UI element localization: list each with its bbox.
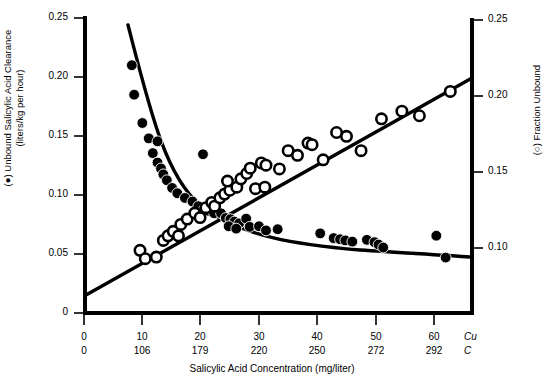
data-point-fraction-unbound	[195, 212, 205, 222]
xtick-cu-4: 40	[297, 331, 337, 342]
y-axis-right-title: (○) Fraction Unbound	[531, 25, 543, 195]
ytick-left-3: 0.10	[28, 188, 68, 199]
data-point-fraction-unbound	[173, 231, 183, 241]
data-point-clearance	[126, 60, 137, 71]
ytick-right-0: 0.25	[488, 13, 528, 24]
data-point-clearance	[440, 252, 451, 263]
data-point-fraction-unbound	[274, 164, 284, 174]
ytick-right-2: 0.15	[488, 165, 528, 176]
chart-plot-area	[0, 0, 544, 388]
data-point-fraction-unbound	[292, 150, 302, 160]
xtick-c-3: 220	[239, 345, 279, 356]
data-point-fraction-unbound	[318, 155, 328, 165]
data-point-fraction-unbound	[307, 139, 317, 149]
xtick-cu-5: 50	[356, 331, 396, 342]
caption-strip	[0, 381, 544, 388]
data-point-fraction-unbound	[151, 252, 161, 262]
data-point-clearance	[129, 89, 140, 100]
data-point-fraction-unbound	[260, 182, 270, 192]
ytick-left-0: 0.25	[28, 11, 68, 22]
xtick-cu-6: 60	[414, 331, 454, 342]
data-point-fraction-unbound	[341, 131, 351, 141]
xtick-cu-1: 10	[122, 331, 162, 342]
ytick-right-3: 0.10	[488, 241, 528, 252]
data-point-fraction-unbound	[414, 111, 424, 121]
xtick-cu-2: 20	[180, 331, 220, 342]
data-point-clearance	[315, 228, 326, 239]
ytick-right-1: 0.20	[488, 89, 528, 100]
data-point-clearance	[347, 236, 358, 247]
ytick-left-2: 0.15	[28, 129, 68, 140]
x-axis-row-tag-cu: Cu	[464, 331, 477, 342]
xtick-cu-3: 30	[239, 331, 279, 342]
x-axis-row-tag-c: C	[464, 345, 471, 356]
xtick-c-6: 292	[414, 345, 454, 356]
figure-container: 0.25 0.20 0.15 0.10 0.05 0 0.25 0.20 0.1…	[0, 0, 544, 388]
data-point-fraction-unbound	[356, 146, 366, 156]
data-point-clearance	[378, 242, 389, 253]
xtick-c-2: 179	[180, 345, 220, 356]
xtick-c-4: 250	[297, 345, 337, 356]
data-point-clearance	[198, 149, 209, 160]
open-circle-series	[135, 86, 456, 264]
data-point-clearance	[137, 118, 148, 129]
data-point-clearance	[231, 223, 242, 234]
y-axis-left-title-line2: (liters/kg per hour)	[14, 8, 26, 208]
data-point-fraction-unbound	[376, 114, 386, 124]
y-axis-left-title-line1: (●) Unbound Salicylic Acid Clearance	[2, 30, 13, 187]
data-point-clearance	[261, 225, 272, 236]
data-point-fraction-unbound	[140, 253, 150, 263]
x-axis-title: Salicylic Acid Concentration (mg/liter)	[0, 363, 544, 374]
data-point-clearance	[152, 136, 163, 147]
data-point-fraction-unbound	[261, 160, 271, 170]
ytick-left-4: 0.05	[28, 247, 68, 258]
data-point-fraction-unbound	[445, 86, 455, 96]
y-axis-left-title: (●) Unbound Salicylic Acid Clearance (li…	[2, 8, 26, 208]
data-point-clearance	[431, 230, 442, 241]
data-point-clearance	[272, 224, 283, 235]
ytick-left-1: 0.20	[28, 70, 68, 81]
xtick-cu-0: 0	[64, 331, 104, 342]
data-point-fraction-unbound	[397, 106, 407, 116]
data-point-fraction-unbound	[245, 163, 255, 173]
xtick-c-5: 272	[356, 345, 396, 356]
xtick-c-0: 0	[64, 345, 104, 356]
ytick-left-5: 0	[28, 306, 68, 317]
xtick-c-1: 106	[122, 345, 162, 356]
